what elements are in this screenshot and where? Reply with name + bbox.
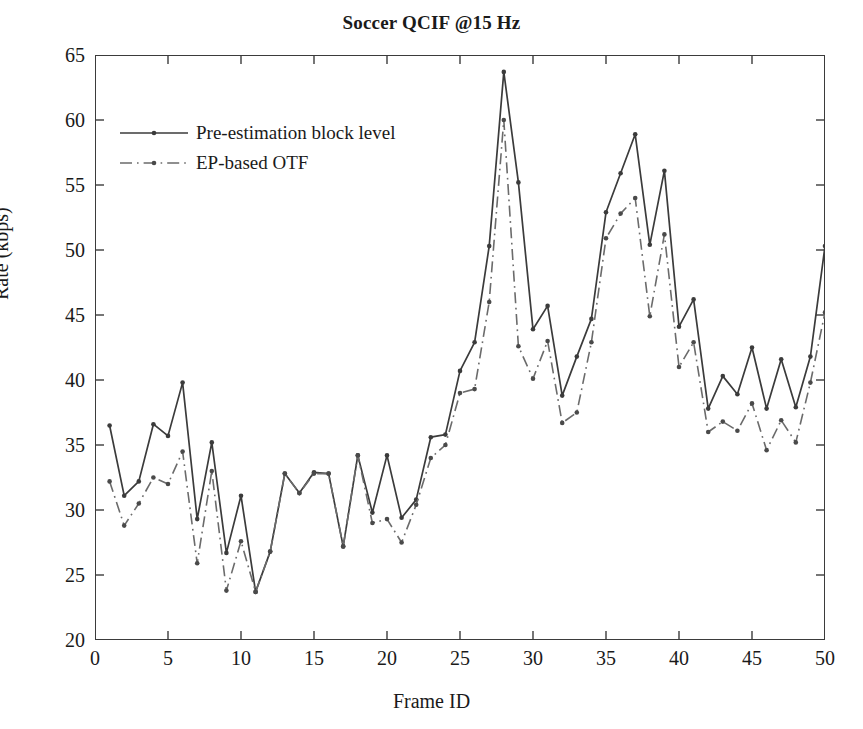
series-marker-2 [531,376,536,381]
series-marker-2 [326,471,331,476]
y-tick-label: 25 [41,565,85,585]
series-marker-2 [399,540,404,545]
series-marker-2 [443,443,448,448]
series-marker-1 [648,243,653,248]
x-tick-label: 10 [216,648,266,668]
series-marker-1 [458,369,463,374]
x-tick-label: 25 [435,648,485,668]
series-marker-1 [823,244,825,249]
series-marker-2 [297,491,302,496]
legend-label-series-1: Pre-estimation block level [190,122,395,144]
series-marker-2 [385,517,390,522]
y-tick-label: 55 [41,175,85,195]
series-marker-1 [210,440,215,445]
y-tick-label: 50 [41,240,85,260]
series-marker-2 [487,300,492,305]
series-marker-1 [604,210,609,215]
series-marker-1 [487,244,492,249]
series-marker-2 [721,419,726,424]
series-marker-1 [633,132,638,137]
series-marker-2 [618,211,623,216]
series-marker-2 [151,475,156,480]
series-marker-2 [370,521,375,526]
series-marker-2 [589,340,594,345]
series-marker-2 [648,314,653,319]
series-marker-1 [399,516,404,521]
series-marker-2 [210,469,215,474]
series-marker-1 [502,70,507,75]
series-marker-1 [691,297,696,302]
series-marker-1 [429,435,434,440]
series-marker-1 [122,493,127,498]
series-marker-2 [575,410,580,415]
series-marker-2 [560,421,565,426]
series-marker-1 [239,493,244,498]
series-marker-1 [195,517,200,522]
series-marker-1 [137,479,142,484]
series-marker-2 [166,482,171,487]
series-marker-2 [356,453,361,458]
y-tick-label: 35 [41,435,85,455]
series-marker-2 [458,391,463,396]
legend-line-sample-dashdot [118,154,190,172]
legend-label-series-2: EP-based OTF [190,152,308,174]
series-marker-2 [735,428,740,433]
series-marker-2 [472,387,477,392]
legend-line-sample-solid [118,124,190,142]
series-marker-1 [107,423,112,428]
series-marker-2 [253,590,258,595]
series-marker-2 [604,236,609,241]
series-marker-1 [545,304,550,309]
series-marker-2 [341,544,346,549]
series-marker-1 [662,168,667,173]
series-marker-2 [502,118,507,123]
y-axis-label: Rate (kbps) [0,207,13,300]
x-tick-label: 45 [727,648,777,668]
legend-item-series-2: EP-based OTF [118,148,418,178]
series-marker-1 [575,354,580,359]
y-tick-label: 20 [41,630,85,650]
series-marker-1 [677,324,682,329]
series-marker-1 [443,432,448,437]
series-marker-2 [239,539,244,544]
series-marker-2 [516,344,521,349]
y-tick-label: 40 [41,370,85,390]
series-marker-2 [122,523,127,528]
series-marker-1 [531,327,536,332]
y-tick-label: 65 [41,45,85,65]
series-marker-1 [706,406,711,411]
series-marker-1 [779,357,784,362]
series-marker-2 [312,471,317,476]
series-marker-2 [662,232,667,237]
series-marker-2 [823,310,825,315]
series-marker-2 [195,561,200,566]
x-tick-label: 0 [70,648,120,668]
series-marker-2 [677,365,682,370]
chart-title: Soccer QCIF @15 Hz [0,12,863,34]
series-marker-2 [750,401,755,406]
y-tick-label: 30 [41,500,85,520]
x-tick-label: 5 [143,648,193,668]
x-tick-label: 40 [654,648,704,668]
series-marker-2 [794,440,799,445]
series-marker-2 [224,588,229,593]
series-marker-2 [268,549,273,554]
series-marker-2 [545,339,550,344]
series-marker-2 [137,501,142,506]
series-marker-1 [385,453,390,458]
series-marker-2 [808,380,813,385]
series-marker-2 [779,418,784,423]
x-tick-label: 20 [362,648,412,668]
series-marker-1 [721,374,726,379]
y-tick-label: 45 [41,305,85,325]
series-marker-1 [808,354,813,359]
series-marker-2 [107,479,112,484]
series-marker-1 [735,392,740,397]
x-tick-label: 50 [800,648,850,668]
series-marker-1 [151,422,156,427]
series-marker-1 [370,510,375,515]
series-marker-2 [283,471,288,476]
series-marker-2 [180,449,185,454]
series-marker-1 [764,406,769,411]
y-tick-label: 60 [41,110,85,130]
